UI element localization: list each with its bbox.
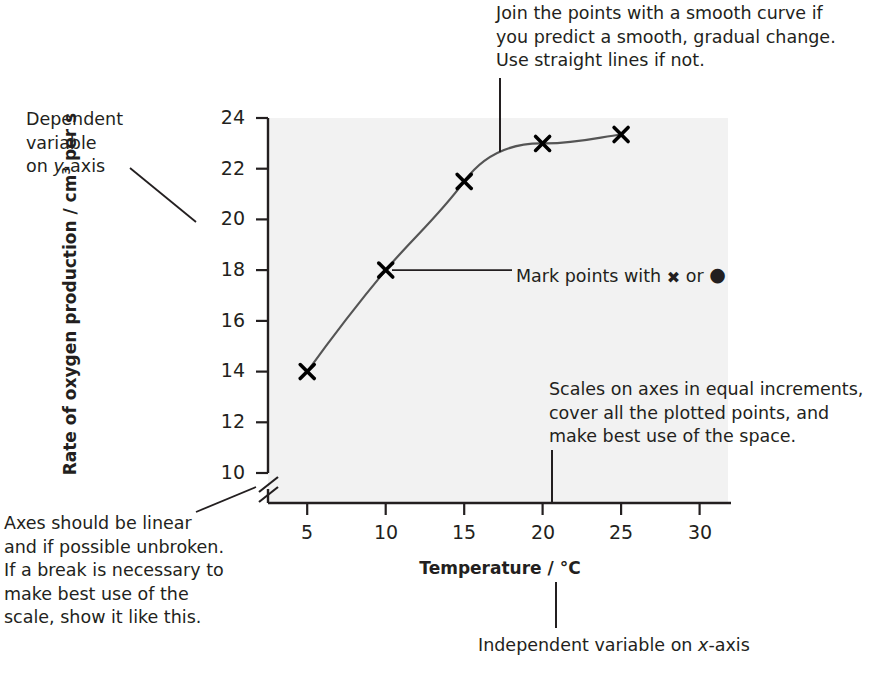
cross-marker-icon: ✖ bbox=[667, 268, 680, 287]
annotation-independent-variable: Independent variable on x-axis bbox=[478, 634, 878, 658]
leader-line-axis-break bbox=[196, 487, 256, 512]
dot-marker-icon: ● bbox=[709, 263, 726, 285]
x-tick-label-15: 15 bbox=[444, 521, 484, 543]
annotation-independent-pre: Independent variable on bbox=[478, 635, 698, 655]
annotation-dependent-line3b: -axis bbox=[64, 156, 105, 176]
y-tick-label-14: 14 bbox=[205, 359, 245, 381]
y-tick-label-16: 16 bbox=[205, 309, 245, 331]
x-tick-label-20: 20 bbox=[523, 521, 563, 543]
x-tick-label-25: 25 bbox=[601, 521, 641, 543]
annotation-join-points: Join the points with a smooth curve if y… bbox=[496, 2, 876, 73]
annotation-scales: Scales on axes in equal increments, cove… bbox=[549, 378, 889, 449]
y-tick-marks bbox=[256, 118, 268, 473]
annotation-independent-post: -axis bbox=[708, 635, 749, 655]
annotation-dependent-line3a: on bbox=[26, 156, 53, 176]
annotation-independent-axis-letter: x bbox=[698, 635, 708, 655]
annotation-mark-points-or: or bbox=[680, 266, 709, 286]
x-tick-label-30: 30 bbox=[680, 521, 720, 543]
annotation-mark-points-text: Mark points with bbox=[516, 266, 667, 286]
x-tick-label-10: 10 bbox=[366, 521, 406, 543]
annotation-dependent-variable: Dependentvariableon y-axis bbox=[26, 108, 226, 179]
annotation-axis-break: Axes should be linear and if possible un… bbox=[4, 512, 254, 630]
x-tick-label-5: 5 bbox=[287, 521, 327, 543]
annotation-dependent-line1: Dependent bbox=[26, 109, 123, 129]
diagram-canvas: 10 12 14 16 18 20 22 24 5 10 15 20 25 30… bbox=[0, 0, 891, 674]
annotation-dependent-axis-letter: y bbox=[53, 156, 63, 176]
y-axis-title-pre: Rate of oxygen production / cm bbox=[60, 175, 80, 476]
y-tick-label-18: 18 bbox=[205, 258, 245, 280]
y-tick-label-10: 10 bbox=[205, 461, 245, 483]
x-axis-title: Temperature / °C bbox=[370, 558, 630, 578]
y-tick-label-12: 12 bbox=[205, 410, 245, 432]
annotation-dependent-line2: variable bbox=[26, 133, 97, 153]
x-tick-marks bbox=[307, 503, 699, 515]
y-tick-label-20: 20 bbox=[205, 207, 245, 229]
y-axis-title: Rate of oxygen production / cm3 per s bbox=[60, 145, 81, 475]
annotation-mark-points: Mark points with ✖ or ● bbox=[516, 263, 856, 290]
